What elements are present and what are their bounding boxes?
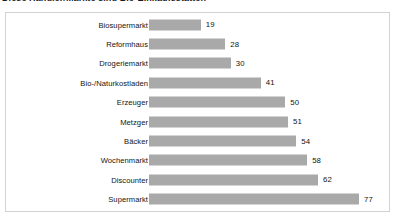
bar-track: 50 bbox=[149, 97, 387, 108]
bar-category-label: Drogeriemarkt bbox=[99, 59, 148, 68]
bar-rows-container: Biosupermarkt19Reformhaus28Drogeriemarkt… bbox=[6, 15, 389, 209]
bar-category-label: Erzeuger bbox=[117, 98, 148, 107]
bar-row: Erzeuger50 bbox=[6, 93, 389, 112]
bar-fill bbox=[149, 136, 296, 147]
bar-category-label: Bäcker bbox=[124, 137, 148, 146]
bar-track: 58 bbox=[149, 155, 387, 166]
bar-track: 28 bbox=[149, 39, 387, 50]
bar-value-label: 28 bbox=[230, 40, 239, 49]
bar-row: Supermarkt77 bbox=[6, 190, 389, 209]
bar-row: Bio-/Naturkostladen41 bbox=[6, 73, 389, 92]
bar-row: Biosupermarkt19 bbox=[6, 15, 389, 34]
bar-track: 77 bbox=[149, 194, 387, 205]
bar-fill bbox=[149, 194, 359, 205]
bar-track: 51 bbox=[149, 116, 387, 127]
bar-fill bbox=[149, 155, 307, 166]
bar-fill bbox=[149, 97, 285, 108]
bar-value-label: 19 bbox=[206, 20, 215, 29]
bar-track: 30 bbox=[149, 58, 387, 69]
bar-row: Metzger51 bbox=[6, 112, 389, 131]
bar-row: Wochenmarkt58 bbox=[6, 151, 389, 170]
page-title: Diese Händler/Märkte sind Bio-Einkaufsst… bbox=[2, 0, 206, 3]
bar-category-label: Discounter bbox=[111, 175, 148, 184]
bar-value-label: 62 bbox=[323, 175, 332, 184]
bar-value-label: 54 bbox=[301, 137, 310, 146]
bar-fill bbox=[149, 19, 201, 30]
bar-value-label: 51 bbox=[293, 117, 302, 126]
bar-category-label: Bio-/Naturkostladen bbox=[80, 78, 148, 87]
bar-fill bbox=[149, 77, 261, 88]
bar-category-label: Metzger bbox=[120, 117, 148, 126]
clipped-title-strip: Diese Händler/Märkte sind Bio-Einkaufsst… bbox=[0, 0, 403, 7]
bar-category-label: Wochenmarkt bbox=[101, 156, 148, 165]
bar-category-label: Biosupermarkt bbox=[98, 20, 148, 29]
bar-category-label: Reformhaus bbox=[106, 40, 148, 49]
bar-fill bbox=[149, 58, 231, 69]
bar-track: 41 bbox=[149, 77, 387, 88]
chart-screenshot: Diese Händler/Märkte sind Bio-Einkaufsst… bbox=[0, 0, 403, 218]
bar-fill bbox=[149, 174, 318, 185]
bar-track: 19 bbox=[149, 19, 387, 30]
bar-row: Discounter62 bbox=[6, 170, 389, 189]
bar-fill bbox=[149, 116, 288, 127]
bar-category-label: Supermarkt bbox=[108, 195, 148, 204]
bar-value-label: 41 bbox=[266, 78, 275, 87]
bar-fill bbox=[149, 39, 225, 50]
bar-row: Reformhaus28 bbox=[6, 34, 389, 53]
bar-row: Drogeriemarkt30 bbox=[6, 54, 389, 73]
bar-row: Bäcker54 bbox=[6, 131, 389, 150]
bar-value-label: 30 bbox=[236, 59, 245, 68]
bar-track: 62 bbox=[149, 174, 387, 185]
bar-value-label: 77 bbox=[364, 195, 373, 204]
bar-value-label: 58 bbox=[312, 156, 321, 165]
bar-value-label: 50 bbox=[290, 98, 299, 107]
bar-track: 54 bbox=[149, 136, 387, 147]
chart-plot-frame: Biosupermarkt19Reformhaus28Drogeriemarkt… bbox=[5, 12, 390, 212]
